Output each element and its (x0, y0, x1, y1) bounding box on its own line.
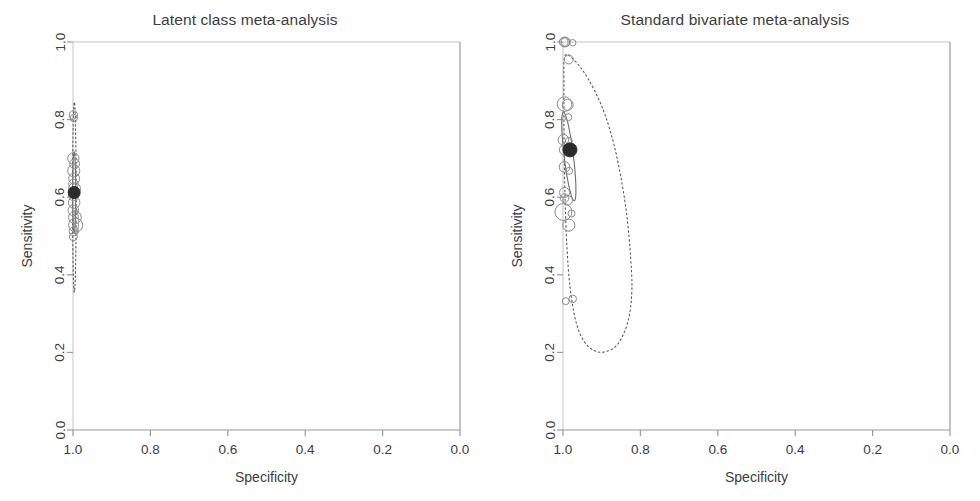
x-tick-label: 0.2 (863, 442, 882, 457)
study-circle (564, 55, 573, 64)
x-tick-label: 0.0 (451, 442, 470, 457)
x-tick-label: 0.0 (941, 442, 960, 457)
y-tick-label: 0.6 (53, 188, 68, 207)
study-circle (563, 219, 575, 231)
y-tick-label: 0.6 (543, 188, 558, 207)
summary-point (563, 143, 577, 157)
study-circle (569, 295, 577, 303)
x-tick-label: 0.4 (786, 442, 805, 457)
x-axis-title: Specificity (235, 469, 298, 485)
prediction-region (564, 54, 632, 352)
y-tick-label: 0.0 (543, 421, 558, 440)
y-tick-label: 0.2 (53, 343, 68, 362)
y-tick-label: 0.8 (53, 110, 68, 129)
plot-area-standard-bivariate: 1.00.80.60.40.20.00.00.20.40.60.81.0Spec… (490, 0, 980, 501)
plot-area-latent-class: 1.00.80.60.40.20.00.00.20.40.60.81.0Spec… (0, 0, 490, 501)
panel-standard-bivariate: Standard bivariate meta-analysis 1.00.80… (490, 0, 980, 501)
x-tick-label: 0.6 (218, 442, 237, 457)
summary-point (68, 187, 80, 199)
x-axis-title: Specificity (725, 469, 788, 485)
x-tick-label: 1.0 (64, 442, 83, 457)
x-tick-label: 0.8 (141, 442, 160, 457)
y-tick-label: 0.0 (53, 421, 68, 440)
x-tick-label: 0.6 (708, 442, 727, 457)
y-tick-label: 0.2 (543, 343, 558, 362)
x-tick-label: 0.2 (373, 442, 392, 457)
panel-latent-class: Latent class meta-analysis 1.00.80.60.40… (0, 0, 490, 501)
y-tick-label: 0.4 (543, 265, 558, 284)
y-tick-label: 0.8 (543, 110, 558, 129)
x-tick-label: 0.8 (631, 442, 650, 457)
y-tick-label: 1.0 (53, 33, 68, 52)
sroc-figure: Latent class meta-analysis 1.00.80.60.40… (0, 0, 980, 501)
y-tick-label: 1.0 (543, 33, 558, 52)
x-tick-label: 1.0 (554, 442, 573, 457)
x-tick-label: 0.4 (296, 442, 315, 457)
y-axis-title: Sensitivity (19, 204, 35, 267)
y-axis-title: Sensitivity (509, 204, 525, 267)
y-tick-label: 0.4 (53, 265, 68, 284)
